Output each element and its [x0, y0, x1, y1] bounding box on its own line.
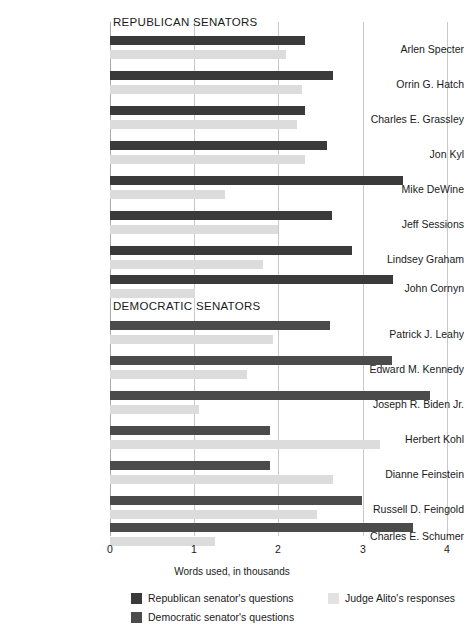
bar-alito-responses: [110, 405, 199, 414]
legend: Republican senator's questions Democrati…: [0, 592, 464, 631]
bar-dem-questions: [110, 321, 330, 330]
bar-dem-questions: [110, 391, 430, 400]
category-label: Mike DeWine: [359, 184, 464, 195]
bar-dem-questions: [110, 496, 362, 505]
bar-dem-questions: [110, 356, 392, 365]
bar-dem-questions: [110, 426, 270, 435]
bar-rep-questions: [110, 36, 305, 45]
category-label: Patrick J. Leahy: [359, 329, 464, 340]
legend-item-alito: Judge Alito's responses: [328, 592, 455, 604]
bar-dem-questions: [110, 461, 270, 470]
category-label: Joseph R. Biden Jr.: [359, 399, 464, 410]
legend-swatch-alito-icon: [328, 593, 339, 604]
bar-alito-responses: [110, 155, 305, 164]
gridline-4: [447, 22, 448, 536]
category-label: Charles E. Grassley: [359, 114, 464, 125]
category-label: Jon Kyl: [359, 149, 464, 160]
bar-alito-responses: [110, 510, 317, 519]
category-label: Russell D. Feingold: [359, 504, 464, 515]
category-label: John Cornyn: [359, 283, 464, 294]
bar-alito-responses: [110, 370, 247, 379]
x-tick-3: 3: [353, 543, 373, 555]
x-tick-4: 4: [437, 543, 457, 555]
category-label: Jeff Sessions: [359, 219, 464, 230]
bar-alito-responses: [110, 120, 297, 129]
bar-rep-questions: [110, 275, 393, 284]
category-label: Edward M. Kennedy: [359, 364, 464, 375]
bar-rep-questions: [110, 246, 352, 255]
legend-label: Democratic senator's questions: [148, 611, 294, 623]
bar-alito-responses: [110, 85, 302, 94]
bar-rep-questions: [110, 106, 305, 115]
bar-rep-questions: [110, 71, 333, 80]
bar-alito-responses: [110, 50, 286, 59]
chart-container: REPUBLICAN SENATORS DEMOCRATIC SENATORS …: [0, 0, 464, 631]
legend-item-republican: Republican senator's questions: [131, 592, 294, 604]
bar-alito-responses: [110, 475, 333, 484]
legend-swatch-republican-icon: [131, 593, 142, 604]
bar-rep-questions: [110, 211, 332, 220]
x-axis-title: Words used, in thousands: [0, 566, 464, 577]
section-heading-republican: REPUBLICAN SENATORS: [113, 16, 258, 28]
legend-label: Republican senator's questions: [148, 592, 294, 604]
x-tick-2: 2: [268, 543, 288, 555]
bar-rep-questions: [110, 176, 403, 185]
category-label: Charles E. Schumer: [359, 531, 464, 542]
category-label: Dianne Feinstein: [359, 469, 464, 480]
x-tick-1: 1: [184, 543, 204, 555]
category-label: Lindsey Graham: [359, 254, 464, 265]
bar-alito-responses: [110, 335, 273, 344]
legend-swatch-democratic-icon: [131, 612, 142, 623]
category-label: Orrin G. Hatch: [359, 79, 464, 90]
category-label: Arlen Specter: [359, 44, 464, 55]
bar-alito-responses: [110, 260, 263, 269]
x-tick-0: 0: [100, 543, 120, 555]
legend-item-democratic: Democratic senator's questions: [131, 611, 294, 623]
bar-alito-responses: [110, 440, 380, 449]
bar-dem-questions: [110, 523, 413, 532]
legend-label: Judge Alito's responses: [345, 592, 455, 604]
section-heading-democratic: DEMOCRATIC SENATORS: [113, 300, 261, 312]
bar-alito-responses: [110, 225, 278, 234]
bar-alito-responses: [110, 289, 195, 298]
bar-alito-responses: [110, 190, 225, 199]
bar-rep-questions: [110, 141, 327, 150]
